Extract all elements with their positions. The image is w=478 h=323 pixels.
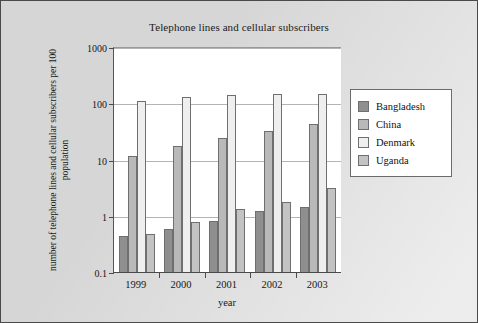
bar-china-1999 bbox=[128, 156, 137, 273]
x-axis-title: year bbox=[113, 297, 341, 308]
bar-china-2003 bbox=[309, 124, 318, 273]
y-tick: 0.1 bbox=[114, 273, 115, 274]
bar-china-2000 bbox=[173, 146, 182, 273]
x-tick-mark bbox=[205, 273, 206, 278]
bar-uganda-2000 bbox=[191, 222, 200, 273]
y-tick-mark bbox=[109, 273, 114, 274]
bar-uganda-1999 bbox=[146, 234, 155, 273]
x-axis-line bbox=[114, 272, 341, 273]
bar-group bbox=[205, 48, 250, 273]
legend-label: Bangladesh bbox=[376, 101, 425, 112]
bar-denmark-2002 bbox=[273, 94, 282, 273]
x-tick-label-2002: 2002 bbox=[249, 279, 295, 290]
legend-label: Denmark bbox=[376, 137, 415, 148]
bar-denmark-2001 bbox=[227, 95, 236, 273]
x-tick-label-1999: 1999 bbox=[113, 279, 159, 290]
bar-uganda-2001 bbox=[236, 209, 245, 273]
legend-swatch-icon bbox=[358, 137, 369, 148]
x-tick-mark bbox=[159, 273, 160, 278]
bar-bangladesh-1999 bbox=[119, 236, 128, 273]
bar-group bbox=[296, 48, 341, 273]
x-tick-label-2001: 2001 bbox=[204, 279, 250, 290]
bar-bangladesh-2000 bbox=[164, 229, 173, 273]
bar-bangladesh-2001 bbox=[209, 221, 218, 273]
x-tick-mark bbox=[250, 273, 251, 278]
legend-item-denmark[interactable]: Denmark bbox=[358, 133, 445, 151]
chart-title: Telephone lines and cellular subscribers bbox=[1, 21, 477, 33]
bar-denmark-2003 bbox=[318, 94, 327, 273]
chart-legend: BangladeshChinaDenmarkUganda bbox=[350, 89, 452, 177]
plot-area: 0.11101001000 bbox=[113, 47, 341, 273]
legend-item-bangladesh[interactable]: Bangladesh bbox=[358, 97, 445, 115]
bar-denmark-2000 bbox=[182, 97, 191, 273]
y-tick-label: 100 bbox=[92, 99, 107, 110]
y-tick-label: 0.1 bbox=[95, 268, 108, 279]
bar-uganda-2003 bbox=[327, 188, 336, 273]
bar-bangladesh-2003 bbox=[300, 207, 309, 273]
y-axis-title: number of telephone lines and cellular s… bbox=[39, 47, 79, 273]
bar-denmark-1999 bbox=[137, 101, 146, 273]
legend-item-uganda[interactable]: Uganda bbox=[358, 151, 445, 169]
legend-label: Uganda bbox=[376, 155, 409, 166]
x-tick-label-2000: 2000 bbox=[158, 279, 204, 290]
legend-swatch-icon bbox=[358, 101, 369, 112]
bar-group bbox=[250, 48, 295, 273]
bar-group bbox=[159, 48, 204, 273]
chart-figure: Telephone lines and cellular subscribers… bbox=[0, 0, 478, 323]
bar-bangladesh-2002 bbox=[255, 211, 264, 273]
y-tick-label: 1 bbox=[102, 211, 107, 222]
bar-uganda-2002 bbox=[282, 202, 291, 273]
y-tick-label: 1000 bbox=[87, 43, 107, 54]
legend-label: China bbox=[376, 119, 401, 130]
x-tick-label-2003: 2003 bbox=[294, 279, 340, 290]
legend-item-china[interactable]: China bbox=[358, 115, 445, 133]
legend-swatch-icon bbox=[358, 119, 369, 130]
bar-china-2002 bbox=[264, 131, 273, 273]
y-tick-label: 10 bbox=[97, 155, 107, 166]
legend-swatch-icon bbox=[358, 155, 369, 166]
x-tick-mark bbox=[296, 273, 297, 278]
bar-group bbox=[114, 48, 159, 273]
bar-china-2001 bbox=[218, 138, 227, 273]
